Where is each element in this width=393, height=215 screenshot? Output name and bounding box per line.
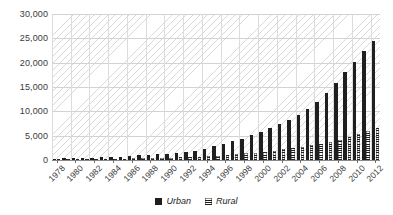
x-axis-tick [207,160,208,163]
gridline [52,87,380,88]
bar-urban [203,149,206,160]
bar-urban [297,115,300,160]
bar-rural [319,144,322,160]
bar-chart: 05,00010,00015,00020,00025,00030,000 Urb… [0,0,393,215]
x-axis-tick-label: 1980 [65,163,86,184]
x-axis-tick-label: 1986 [121,163,142,184]
x-axis-line [52,160,380,161]
x-axis-tick-label: 1984 [102,163,123,184]
bar-urban [222,144,225,160]
gridline [52,136,380,137]
x-axis-tick [94,160,95,163]
bar-rural [254,153,257,160]
x-axis-tick-label: 1988 [140,163,161,184]
x-axis-tick-label: 1978 [46,163,67,184]
x-axis-tick-label: 2002 [271,163,292,184]
bar-urban [362,51,365,160]
vertical-gridline [89,14,90,160]
x-axis-tick [375,160,376,163]
x-axis-tick-label: 1982 [84,163,105,184]
bar-rural [348,137,351,160]
bar-urban [184,152,187,160]
y-axis-tick-label: 10,000 [20,106,48,116]
bar-rural [273,151,276,160]
plot-area [52,14,380,160]
bar-urban [306,109,309,160]
x-axis-tick-label: 1996 [215,163,236,184]
gridline [52,14,380,15]
bar-rural [291,148,294,160]
bar-urban [268,128,271,160]
vertical-gridline [202,14,203,160]
gridline [52,38,380,39]
bar-urban [315,102,318,160]
x-axis-tick [244,160,245,163]
x-axis-tick-label: 1994 [196,163,217,184]
bar-urban [175,153,178,160]
bar-urban [278,124,281,160]
bar-rural [357,134,360,160]
bar-urban [353,62,356,160]
legend-item-urban: Urban [155,196,191,206]
bar-urban [334,83,337,160]
bar-rural [282,149,285,160]
x-axis-tick-label: 1992 [177,163,198,184]
vertical-gridline [71,14,72,160]
vertical-gridline [146,14,147,160]
x-axis-tick [338,160,339,163]
x-axis-tick [300,160,301,163]
y-axis: 05,00010,00015,00020,00025,00030,000 [0,0,48,215]
x-axis-tick [319,160,320,163]
bar-urban [287,120,290,160]
x-axis-tick [113,160,114,163]
bar-urban [343,72,346,160]
x-axis-tick-label: 2012 [365,163,386,184]
x-axis-tick-label: 2008 [327,163,348,184]
x-axis-tick-label: 2006 [308,163,329,184]
x-axis-tick [357,160,358,163]
y-axis-tick-label: 15,000 [20,82,48,92]
bar-rural [366,131,369,160]
bar-urban [372,41,375,160]
bar-urban [259,132,262,160]
x-axis-tick [225,160,226,163]
x-axis-tick-label: 2000 [252,163,273,184]
bar-urban [212,146,215,160]
bar-rural [301,147,304,160]
x-axis-tick [263,160,264,163]
legend-swatch-rural-icon [205,198,212,205]
x-axis-tick-label: 2004 [290,163,311,184]
x-axis-tick-label: 1998 [233,163,254,184]
x-axis-tick [57,160,58,163]
x-axis-tick [282,160,283,163]
x-axis-tick-label: 2010 [346,163,367,184]
x-axis-tick [132,160,133,163]
bar-urban [231,141,234,160]
y-axis-tick-label: 20,000 [20,58,48,68]
bar-rural [329,142,332,160]
y-axis-tick-label: 0 [43,155,48,165]
legend-item-rural: Rural [205,196,238,206]
bar-urban [250,135,253,160]
y-axis-tick-label: 25,000 [20,33,48,43]
x-axis-tick [169,160,170,163]
gridline [52,111,380,112]
x-axis-tick [75,160,76,163]
bar-rural [338,140,341,160]
vertical-gridline [52,14,53,160]
chart-legend: Urban Rural [0,196,393,206]
vertical-gridline [108,14,109,160]
bar-urban [240,139,243,160]
y-axis-tick-label: 30,000 [20,9,48,19]
y-axis-tick-label: 5,000 [25,131,48,141]
bar-urban [325,93,328,160]
x-axis-tick [188,160,189,163]
bar-rural [310,145,313,160]
legend-label-rural: Rural [216,196,238,206]
x-axis-tick [150,160,151,163]
vertical-gridline [183,14,184,160]
gridline [52,63,380,64]
bar-urban [193,151,196,160]
vertical-gridline [164,14,165,160]
vertical-gridline [127,14,128,160]
